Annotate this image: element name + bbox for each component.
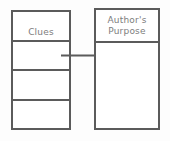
purpose-header: Author's Purpose [96, 10, 158, 43]
purpose-body[interactable] [96, 43, 158, 128]
clues-header-row: Clues [13, 12, 69, 42]
purpose-header-label: Author's Purpose [107, 15, 146, 37]
clues-row[interactable] [13, 71, 69, 101]
clues-row[interactable] [13, 101, 69, 129]
purpose-box: Author's Purpose [94, 8, 160, 130]
graphic-organizer-diagram: Clues Author's Purpose [0, 0, 170, 141]
clues-header-label: Clues [28, 28, 54, 40]
clues-table: Clues [11, 10, 71, 130]
